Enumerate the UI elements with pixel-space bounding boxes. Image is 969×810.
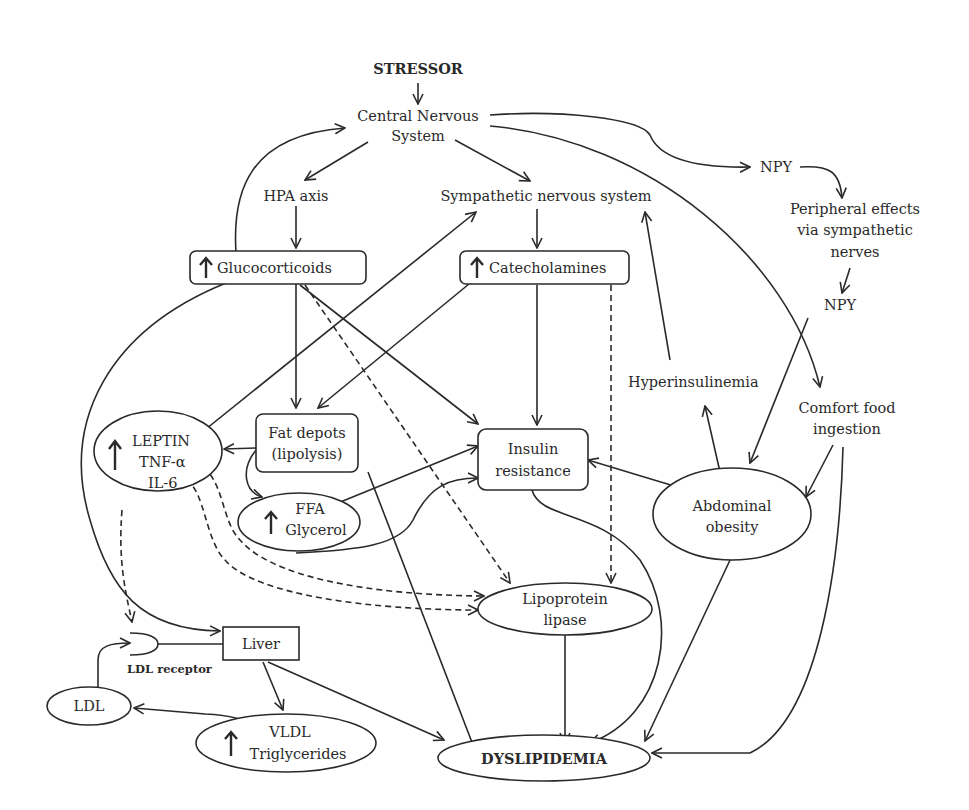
node-ldl-label: LDL <box>74 698 105 714</box>
edge-cns-npy <box>490 114 750 168</box>
node-comfort-line2: ingestion <box>813 421 881 437</box>
edge-peripheral-npy <box>842 268 850 293</box>
edge-catechol-fat <box>318 284 469 408</box>
node-glucocorticoids: Glucocorticoids <box>190 251 366 284</box>
node-leptin: LEPTIN <box>132 433 190 449</box>
node-sympathetic-nervous-system: Sympathetic nervous system <box>440 188 651 204</box>
edge-ldl-ldlreceptor <box>98 643 130 688</box>
edge-liver-vldl <box>263 662 283 710</box>
edge-abdominal-dyslip <box>645 558 731 741</box>
edge-npy-abdominal <box>750 318 808 463</box>
node-insulin-line1: Insulin <box>508 441 558 457</box>
node-abdominal-line2: obesity <box>706 519 759 535</box>
node-abdominal-obesity: Abdominal obesity <box>653 468 811 560</box>
node-fat-line2: (lipolysis) <box>272 446 343 462</box>
node-catecholamines-label: Catecholamines <box>489 260 606 276</box>
edge-cns-hpa <box>305 142 368 180</box>
edge-abdominal-insulin <box>588 460 674 486</box>
node-vldl: VLDL <box>268 724 311 740</box>
node-dyslipidemia: DYSLIPIDEMIA <box>438 735 650 781</box>
node-fat-line1: Fat depots <box>268 425 345 441</box>
node-lpl-line1: Lipoprotein <box>522 591 608 607</box>
node-catecholamines: Catecholamines <box>460 251 629 284</box>
node-insulin-resistance: Insulin resistance <box>478 429 588 490</box>
node-lipoprotein-lipase: Lipoprotein lipase <box>478 583 652 635</box>
node-glucocorticoids-label: Glucocorticoids <box>217 260 332 276</box>
edge-fat-leptin <box>224 448 256 449</box>
node-peripheral-line2: via sympathetic <box>796 222 913 238</box>
node-glycerol: Glycerol <box>285 522 347 538</box>
node-npy-lower: NPY <box>824 297 856 313</box>
edge-cns-sns <box>455 140 530 181</box>
node-adipokines: LEPTIN TNF-α IL-6 <box>94 411 222 491</box>
edge-gluco-insulin <box>300 285 478 424</box>
node-hpa-axis: HPA axis <box>263 188 328 204</box>
edge-comfort-abdominal <box>806 445 833 497</box>
node-vldl-triglycerides: VLDL Triglycerides <box>196 714 376 772</box>
node-stressor: STRESSOR <box>373 60 464 77</box>
node-liver-label: Liver <box>242 636 280 652</box>
node-peripheral-line1: Peripheral effects <box>790 201 920 217</box>
node-ldl-receptor: LDL receptor <box>127 633 213 676</box>
node-cns-line1: Central Nervous <box>357 108 479 124</box>
stress-dyslipidemia-diagram: STRESSOR Central Nervous System HPA axis… <box>0 0 969 810</box>
node-abdominal-line1: Abdominal <box>692 498 772 514</box>
node-tnf-alpha: TNF-α <box>139 454 186 470</box>
edge-abdominal-hyper <box>705 406 720 472</box>
node-hyperinsulinemia: Hyperinsulinemia <box>628 374 759 390</box>
node-fat-depots: Fat depots (lipolysis) <box>256 414 358 472</box>
node-peripheral-line3: nerves <box>830 244 879 260</box>
edge-leptin-sns <box>196 212 476 437</box>
node-insulin-line2: resistance <box>495 463 571 479</box>
edge-npy-peripheral <box>800 167 842 198</box>
node-dyslipidemia-label: DYSLIPIDEMIA <box>481 750 608 767</box>
node-ffa-glycerol: FFA Glycerol <box>238 493 360 551</box>
node-cns-line2: System <box>391 128 445 144</box>
nodes: STRESSOR Central Nervous System HPA axis… <box>47 60 920 781</box>
node-ldl: LDL <box>47 687 131 725</box>
node-triglycerides: Triglycerides <box>250 746 347 762</box>
edge-hyper-sns <box>645 212 670 360</box>
edge-fat-dyslip <box>368 472 478 758</box>
node-liver: Liver <box>223 627 299 660</box>
edge-dashed-ldlreceptor <box>121 510 132 622</box>
node-npy-top: NPY <box>760 159 792 175</box>
node-lpl-line2: lipase <box>543 612 586 628</box>
node-comfort-line1: Comfort food <box>798 400 895 416</box>
node-ffa: FFA <box>295 501 325 517</box>
node-ldl-receptor-label: LDL receptor <box>127 662 213 676</box>
node-il6: IL-6 <box>148 475 177 491</box>
